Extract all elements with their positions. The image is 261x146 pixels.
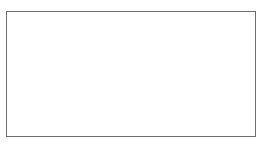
signal-flow-diagram	[0, 0, 261, 146]
